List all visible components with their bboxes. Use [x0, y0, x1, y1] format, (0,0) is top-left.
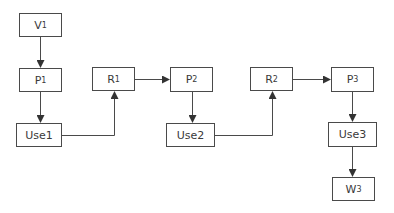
node-subscript: 1 — [42, 21, 47, 30]
edge-use1-r1 — [62, 92, 115, 136]
node-label: V — [34, 19, 42, 32]
node-p2: P2 — [170, 67, 213, 92]
diagram-canvas: V1 P1 Use1 R1 P2 Use2 R2 P3 Use3 W3 — [0, 0, 394, 213]
node-subscript: 1 — [41, 76, 46, 85]
node-subscript: 3 — [356, 185, 361, 194]
node-subscript: 3 — [353, 75, 358, 84]
node-use2: Use2 — [166, 123, 215, 147]
node-p3: P3 — [331, 67, 374, 92]
node-r2: R2 — [250, 67, 293, 91]
node-p1: P1 — [19, 68, 62, 92]
node-label: Use2 — [177, 129, 205, 142]
node-r1: R1 — [92, 67, 135, 91]
edge-use2-r2 — [215, 92, 273, 136]
node-subscript: 2 — [273, 75, 278, 84]
node-subscript: 1 — [115, 75, 120, 84]
node-label: R — [265, 73, 273, 86]
node-label: W — [346, 183, 357, 196]
node-use3: Use3 — [328, 122, 377, 147]
node-v1: V1 — [19, 13, 62, 37]
node-label: P — [347, 73, 354, 86]
node-label: P — [186, 73, 193, 86]
node-label: Use1 — [25, 129, 53, 142]
node-label: Use3 — [339, 128, 367, 141]
node-label: R — [107, 73, 115, 86]
node-label: P — [35, 74, 42, 87]
node-w3: W3 — [332, 177, 375, 201]
node-use1: Use1 — [16, 123, 62, 147]
node-subscript: 2 — [192, 75, 197, 84]
